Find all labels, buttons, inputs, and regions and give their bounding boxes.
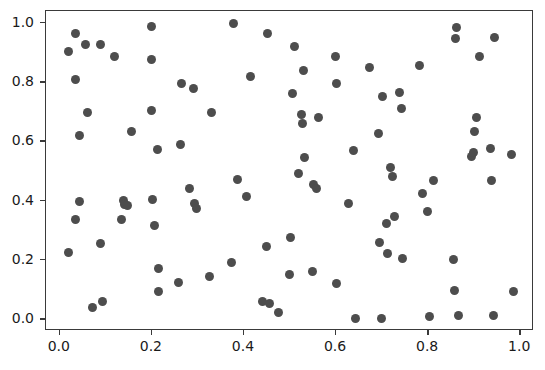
y-tick-label: 0.8 bbox=[0, 73, 34, 90]
scatter-point bbox=[489, 311, 498, 320]
scatter-point bbox=[388, 172, 397, 181]
y-tick bbox=[40, 318, 45, 319]
scatter-point bbox=[286, 233, 295, 242]
x-tick-label: 0.0 bbox=[37, 338, 81, 355]
scatter-point bbox=[398, 254, 407, 263]
scatter-point bbox=[314, 113, 323, 122]
scatter-point bbox=[451, 34, 460, 43]
scatter-point bbox=[450, 286, 459, 295]
scatter-point bbox=[123, 201, 132, 210]
y-tick-label: 0.2 bbox=[0, 251, 34, 268]
scatter-point bbox=[75, 131, 84, 140]
scatter-point bbox=[147, 106, 156, 115]
scatter-point bbox=[274, 308, 283, 317]
x-tick bbox=[335, 330, 336, 335]
scatter-point bbox=[227, 258, 236, 267]
scatter-point bbox=[192, 204, 201, 213]
scatter-point bbox=[71, 215, 80, 224]
scatter-point bbox=[288, 89, 297, 98]
y-tick bbox=[40, 81, 45, 82]
scatter-point bbox=[349, 146, 358, 155]
y-tick bbox=[40, 259, 45, 260]
scatter-point bbox=[418, 189, 427, 198]
scatter-point bbox=[233, 175, 242, 184]
x-tick bbox=[519, 330, 520, 335]
scatter-point bbox=[395, 88, 404, 97]
scatter-point bbox=[127, 127, 136, 136]
scatter-point bbox=[397, 104, 406, 113]
scatter-point bbox=[308, 267, 317, 276]
scatter-point bbox=[300, 153, 309, 162]
scatter-point bbox=[153, 145, 162, 154]
scatter-point bbox=[297, 110, 306, 119]
scatter-point bbox=[298, 119, 307, 128]
scatter-point bbox=[390, 212, 399, 221]
scatter-point bbox=[290, 42, 299, 51]
scatter-point bbox=[262, 242, 271, 251]
scatter-point bbox=[117, 215, 126, 224]
scatter-point bbox=[475, 52, 484, 61]
x-tick bbox=[427, 330, 428, 335]
scatter-point bbox=[332, 279, 341, 288]
scatter-point bbox=[383, 249, 392, 258]
scatter-point bbox=[64, 248, 73, 257]
scatter-point bbox=[148, 195, 157, 204]
y-tick-label: 0.4 bbox=[0, 192, 34, 209]
scatter-point bbox=[429, 176, 438, 185]
y-tick-label: 0.6 bbox=[0, 132, 34, 149]
scatter-point bbox=[83, 108, 92, 117]
y-tick bbox=[40, 22, 45, 23]
scatter-point bbox=[265, 299, 274, 308]
x-tick-label: 0.8 bbox=[405, 338, 449, 355]
scatter-point bbox=[81, 40, 90, 49]
y-tick-label: 1.0 bbox=[0, 14, 34, 31]
scatter-point bbox=[332, 79, 341, 88]
scatter-point bbox=[88, 303, 97, 312]
y-tick-label: 0.0 bbox=[0, 310, 34, 327]
scatter-point bbox=[64, 47, 73, 56]
scatter-point bbox=[490, 33, 499, 42]
scatter-point bbox=[386, 163, 395, 172]
scatter-point bbox=[147, 55, 156, 64]
scatter-point bbox=[507, 150, 516, 159]
scatter-point bbox=[71, 29, 80, 38]
scatter-point bbox=[150, 221, 159, 230]
scatter-point bbox=[207, 108, 216, 117]
scatter-point bbox=[71, 75, 80, 84]
scatter-point bbox=[205, 272, 214, 281]
scatter-point bbox=[382, 219, 391, 228]
scatter-point bbox=[351, 314, 360, 323]
scatter-point bbox=[154, 264, 163, 273]
scatter-point bbox=[299, 66, 308, 75]
scatter-point bbox=[176, 140, 185, 149]
scatter-point bbox=[509, 287, 518, 296]
scatter-point bbox=[96, 239, 105, 248]
scatter-point bbox=[246, 72, 255, 81]
scatter-point bbox=[263, 29, 272, 38]
scatter-point bbox=[344, 199, 353, 208]
x-tick-label: 1.0 bbox=[497, 338, 541, 355]
x-tick-label: 0.4 bbox=[221, 338, 265, 355]
scatter-points-layer bbox=[46, 11, 532, 329]
scatter-point bbox=[486, 144, 495, 153]
scatter-point bbox=[147, 22, 156, 31]
scatter-point bbox=[365, 63, 374, 72]
x-tick bbox=[151, 330, 152, 335]
scatter-point bbox=[423, 207, 432, 216]
scatter-point bbox=[331, 52, 340, 61]
scatter-point bbox=[472, 113, 481, 122]
scatter-point bbox=[469, 148, 478, 157]
scatter-point bbox=[415, 61, 424, 70]
scatter-point bbox=[454, 311, 463, 320]
scatter-point bbox=[242, 192, 251, 201]
scatter-point bbox=[425, 312, 434, 321]
x-tick bbox=[243, 330, 244, 335]
scatter-point bbox=[96, 40, 105, 49]
x-tick-label: 0.6 bbox=[313, 338, 357, 355]
scatter-point bbox=[285, 270, 294, 279]
scatter-point bbox=[312, 184, 321, 193]
x-tick-label: 0.2 bbox=[129, 338, 173, 355]
scatter-point bbox=[154, 287, 163, 296]
scatter-point bbox=[229, 19, 238, 28]
scatter-point bbox=[110, 52, 119, 61]
